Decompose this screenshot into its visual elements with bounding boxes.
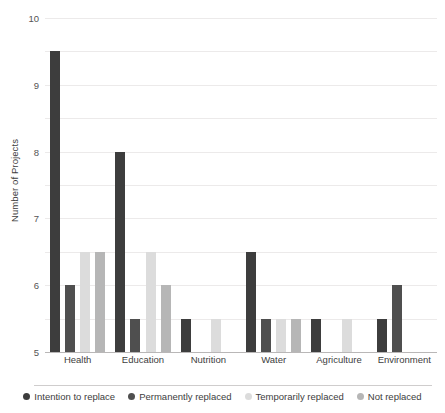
bar-slot (311, 18, 321, 352)
x-axis-labels: HealthEducationNutritionWaterAgriculture… (45, 354, 437, 365)
bar-slot (291, 18, 301, 352)
bar[interactable] (130, 319, 140, 352)
bar-group-water (241, 18, 306, 352)
bar-group-nutrition (176, 18, 241, 352)
bar[interactable] (50, 51, 60, 352)
y-tick-label: 7 (34, 213, 39, 224)
legend-label: Intention to replace (34, 391, 115, 402)
bar[interactable] (95, 252, 105, 352)
bar-group-education (110, 18, 175, 352)
bar[interactable] (246, 252, 256, 352)
bar-slot (146, 18, 156, 352)
bar[interactable] (115, 152, 125, 352)
legend-label: Not replaced (368, 391, 422, 402)
bar[interactable] (261, 319, 271, 352)
bar-slot (226, 18, 236, 352)
bar-slot (50, 18, 60, 352)
bar-slot (130, 18, 140, 352)
bar[interactable] (291, 319, 301, 352)
x-tick-label-education: Education (110, 354, 175, 365)
bar-slot (80, 18, 90, 352)
legend-swatch-icon (23, 393, 30, 400)
bar-slot (161, 18, 171, 352)
bar-slot (407, 18, 417, 352)
bar[interactable] (65, 285, 75, 352)
bar-slot (211, 18, 221, 352)
bar-slot (357, 18, 367, 352)
x-tick-label-water: Water (241, 354, 306, 365)
bar-group-health (45, 18, 110, 352)
axis-line-zero: 0 (45, 352, 437, 353)
legend-item[interactable]: Not replaced (357, 391, 422, 402)
bar[interactable] (342, 319, 352, 352)
bar[interactable] (211, 319, 221, 352)
bar-chart: Number of Projects 012345678910 HealthEd… (0, 0, 445, 413)
y-axis-title: Number of Projects (8, 0, 22, 360)
legend-label: Temporarily replaced (256, 391, 344, 402)
y-tick-label: 10 (28, 13, 39, 24)
x-tick-label-environment: Environment (372, 354, 437, 365)
bar[interactable] (377, 319, 387, 352)
x-tick-label-health: Health (45, 354, 110, 365)
legend-swatch-icon (128, 393, 135, 400)
bar-group-agriculture (306, 18, 371, 352)
bar[interactable] (311, 319, 321, 352)
bar-slot (115, 18, 125, 352)
legend-divider (34, 385, 432, 386)
plot-area: 012345678910 (45, 18, 437, 352)
bar[interactable] (276, 319, 286, 352)
y-axis-title-label: Number of Projects (10, 138, 21, 221)
bar-slot (326, 18, 336, 352)
bars-layer (45, 18, 437, 352)
bar-slot (196, 18, 206, 352)
legend-label: Permanently replaced (139, 391, 231, 402)
bar-slot (95, 18, 105, 352)
chart-legend: Intention to replacePermanently replaced… (0, 391, 445, 402)
x-tick-label-agriculture: Agriculture (306, 354, 371, 365)
bar[interactable] (146, 252, 156, 352)
bar-slot (65, 18, 75, 352)
legend-item[interactable]: Permanently replaced (128, 391, 231, 402)
bar-slot (246, 18, 256, 352)
legend-item[interactable]: Temporarily replaced (245, 391, 344, 402)
legend-swatch-icon (357, 393, 364, 400)
y-tick-label: 8 (34, 146, 39, 157)
y-tick-label: 9 (34, 79, 39, 90)
bar-slot (261, 18, 271, 352)
y-tick-label: 5 (34, 347, 39, 358)
bar[interactable] (80, 252, 90, 352)
legend-swatch-icon (245, 393, 252, 400)
y-tick-label: 6 (34, 280, 39, 291)
bar-group-environment (372, 18, 437, 352)
bar-slot (342, 18, 352, 352)
x-tick-label-nutrition: Nutrition (176, 354, 241, 365)
legend-item[interactable]: Intention to replace (23, 391, 115, 402)
bar-slot (422, 18, 432, 352)
bar[interactable] (181, 319, 191, 352)
bar-slot (276, 18, 286, 352)
bar-slot (392, 18, 402, 352)
bar-slot (181, 18, 191, 352)
bar-slot (377, 18, 387, 352)
bar[interactable] (161, 285, 171, 352)
bar[interactable] (392, 285, 402, 352)
